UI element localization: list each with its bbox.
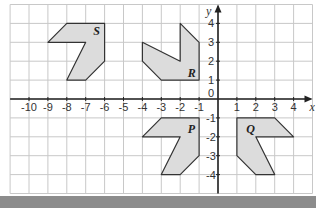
x-tick-label: 2 xyxy=(253,101,259,113)
y-tick-label: -1 xyxy=(206,112,216,124)
y-tick-label: 1 xyxy=(208,74,214,86)
y-tick-label: -3 xyxy=(206,150,216,162)
x-tick-label: -5 xyxy=(119,101,129,113)
shape-label: Q xyxy=(246,122,255,136)
x-tick-label: 1 xyxy=(234,101,240,113)
x-tick-label: -1 xyxy=(194,101,204,113)
x-tick-label: -6 xyxy=(100,101,110,113)
shape-p: P xyxy=(142,118,199,175)
x-tick-label: -10 xyxy=(21,101,37,113)
y-tick-label: -4 xyxy=(206,169,216,181)
shape-r: R xyxy=(142,23,199,80)
bottom-bar xyxy=(0,196,316,208)
x-tick-label: 4 xyxy=(291,101,297,113)
x-tick-label: -4 xyxy=(138,101,148,113)
y-axis-arrow-icon xyxy=(215,5,222,13)
coordinate-plane: SRPQ -10-9-8-7-6-5-4-3-2-112344321-1-2-3… xyxy=(0,0,316,196)
x-tick-label: 3 xyxy=(272,101,278,113)
x-axis-label: x xyxy=(309,100,316,114)
x-tick-label: -7 xyxy=(81,101,91,113)
x-tick-label: -8 xyxy=(62,101,72,113)
shape-label: R xyxy=(187,66,196,80)
coordinate-grid-figure: SRPQ -10-9-8-7-6-5-4-3-2-112344321-1-2-3… xyxy=(0,0,316,208)
y-axis-label: y xyxy=(205,4,212,18)
x-tick-label: -3 xyxy=(156,101,166,113)
y-tick-label: -2 xyxy=(206,131,216,143)
shape-q: Q xyxy=(237,118,294,175)
shape-s: S xyxy=(48,23,105,80)
y-tick-label: 4 xyxy=(208,17,214,29)
y-tick-label: 2 xyxy=(208,55,214,67)
x-tick-label: -2 xyxy=(175,101,185,113)
shape-label: S xyxy=(93,24,100,38)
shape-label: P xyxy=(188,122,196,136)
y-tick-label: 3 xyxy=(208,36,214,48)
x-tick-label: -9 xyxy=(43,101,53,113)
origin-label: 0 xyxy=(208,87,214,99)
